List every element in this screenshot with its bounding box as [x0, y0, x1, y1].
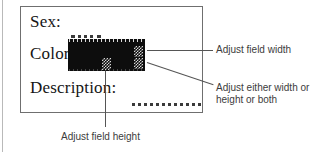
- field-label-sex: Sex:: [30, 11, 61, 32]
- leader-line-height: [105, 71, 106, 127]
- form-row-description: Description:: [21, 75, 202, 109]
- field-input-sex[interactable]: [71, 30, 101, 38]
- resize-handle-icon-right-middle[interactable]: [134, 46, 143, 57]
- resize-handle-icon-bottom-center[interactable]: [102, 58, 111, 70]
- annotation-adjust-height: Adjust field height: [61, 131, 140, 143]
- field-input-color-selected[interactable]: [68, 39, 145, 71]
- selection-marquee-top: [68, 39, 145, 42]
- figure-container: Sex: Color: Description: Adjust field wi…: [0, 0, 326, 152]
- field-label-description: Description:: [30, 77, 116, 98]
- form-row-sex: Sex:: [21, 9, 202, 43]
- annotation-adjust-width: Adjust field width: [216, 44, 291, 56]
- annotation-adjust-both: Adjust either width or height or both: [216, 82, 320, 106]
- field-input-description[interactable]: [132, 98, 201, 106]
- page-edge-rule: [2, 0, 3, 152]
- resize-handle-icon-right-bottom[interactable]: [134, 58, 143, 69]
- leader-line-width: [147, 50, 213, 51]
